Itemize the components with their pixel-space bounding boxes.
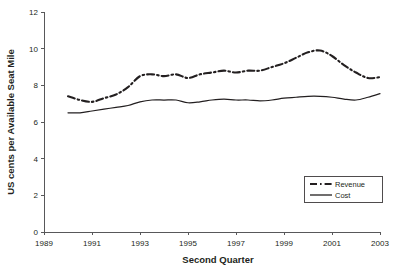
y-tick-label: 2 [34, 191, 39, 200]
x-tick-label: 1991 [83, 239, 101, 248]
y-tick-label: 4 [34, 155, 39, 164]
x-tick-label: 1999 [275, 239, 293, 248]
x-tick-label: 2003 [371, 239, 389, 248]
y-tick-label: 12 [29, 8, 38, 17]
x-tick-label: 1993 [131, 239, 149, 248]
x-axis: 19891991199319951997199920012003 [35, 232, 389, 248]
series-line-revenue [68, 50, 380, 102]
series-line-cost [68, 94, 380, 113]
y-tick-label: 6 [34, 118, 39, 127]
line-chart: 024681012 198919911993199519971999200120… [0, 0, 396, 269]
x-tick-label: 1997 [227, 239, 245, 248]
chart-legend: RevenueCost [304, 176, 382, 202]
y-tick-label: 0 [34, 228, 39, 237]
y-tick-label: 10 [29, 45, 38, 54]
x-tick-label: 1989 [35, 239, 53, 248]
chart-container: 024681012 198919911993199519971999200120… [0, 0, 396, 269]
x-tick-label: 2001 [323, 239, 341, 248]
legend-label-cost: Cost [335, 191, 351, 200]
y-tick-label: 8 [34, 81, 39, 90]
x-tick-label: 1995 [179, 239, 197, 248]
data-series-group [68, 50, 380, 113]
y-axis: 024681012 [29, 8, 44, 237]
y-axis-title: US cents per Available Seat Mile [5, 49, 16, 195]
legend-label-revenue: Revenue [335, 180, 365, 189]
x-axis-title: Second Quarter [182, 254, 254, 265]
